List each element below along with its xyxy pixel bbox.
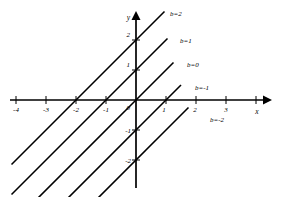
series-label-b-minus-1: b=-1 [195,84,209,92]
y-axis-arrow [132,11,141,20]
y-tick-labels: 2 1 -1 -2 [125,31,131,165]
x-tick-label: 1 [162,106,166,114]
line-b-0 [16,63,174,198]
series-label-b-0: b=0 [187,61,199,69]
y-tick-label: 2 [127,31,131,39]
plot-area: -4 -3 -2 -1 1 2 3 2 1 -1 -2 0 x y b=2 b=… [0,0,281,197]
y-tick-label: -2 [125,157,131,165]
y-axis-label: y [126,13,131,22]
x-tick-label: -4 [13,106,19,114]
line-b-1 [12,39,168,195]
series-labels: b=2 b=1 b=0 b=-1 b=-2 [170,10,225,124]
x-tick-label: -3 [43,106,49,114]
series-label-b-1: b=1 [180,37,192,45]
line-b-2 [12,12,165,165]
x-axis-arrow [263,96,272,105]
line-series-group [12,12,189,198]
x-axis [10,96,272,105]
x-tick-label: 3 [223,106,228,114]
origin-label: 0 [127,104,131,112]
series-label-b-2: b=2 [170,10,182,18]
line-b-minus-2 [46,108,189,198]
x-axis-label: x [254,107,259,116]
x-tick-label: -1 [103,106,109,114]
x-tick-labels: -4 -3 -2 -1 1 2 3 [13,106,228,114]
series-label-b-minus-2: b=-2 [210,116,225,124]
x-tick-label: 2 [193,106,197,114]
graph-figure: -4 -3 -2 -1 1 2 3 2 1 -1 -2 0 x y b=2 b=… [0,0,281,197]
y-tick-label: 1 [127,61,131,69]
y-tick-label: -1 [125,127,131,135]
x-tick-label: -2 [73,106,79,114]
